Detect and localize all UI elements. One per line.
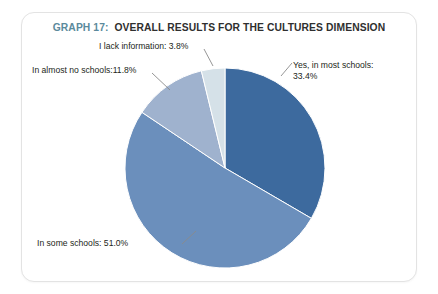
title-main: OVERALL RESULTS FOR THE CULTURES DIMENSI…	[109, 22, 386, 33]
slice-label-most-schools-line1: Yes, in most schools:	[293, 60, 373, 70]
slice-label-almost-no-schools: In almost no schools:11.8%	[32, 65, 136, 76]
slice-label-lack-information: I lack information: 3.8%	[99, 41, 188, 52]
slice-label-most-schools: Yes, in most schools:33.4%	[293, 60, 389, 83]
page-title: GRAPH 17: OVERALL RESULTS FOR THE CULTUR…	[22, 22, 416, 33]
slice-label-most-schools-line2: 33.4%	[293, 71, 317, 81]
title-prefix: GRAPH 17:	[53, 22, 109, 33]
slice-label-some-schools: In some schools: 51.0%	[37, 238, 128, 249]
